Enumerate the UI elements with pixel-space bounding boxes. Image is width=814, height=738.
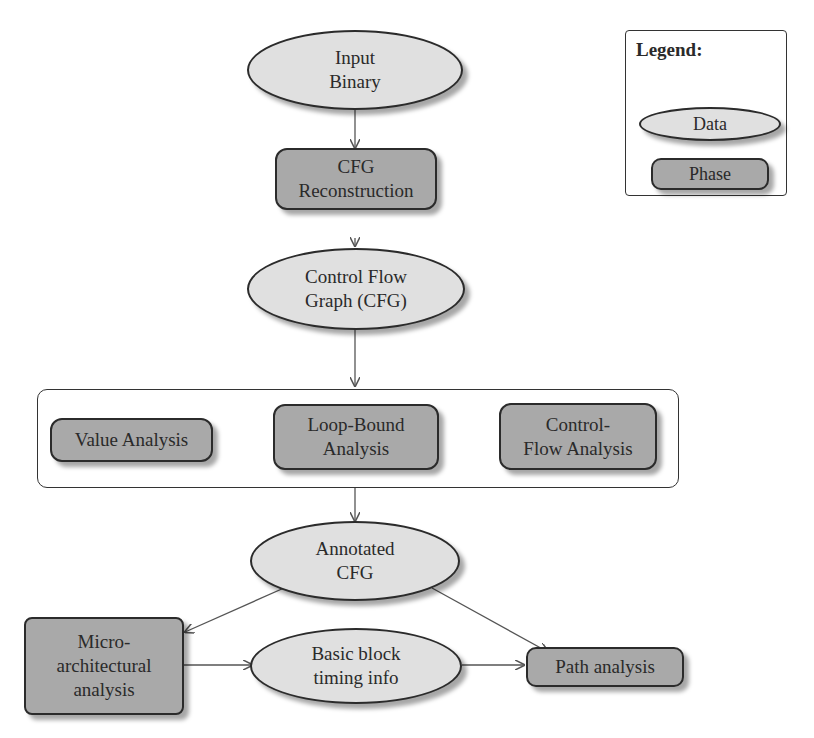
node-annotated-cfg[interactable]: Annotated CFG bbox=[250, 521, 460, 601]
legend-box: Legend: Data Phase bbox=[625, 30, 787, 196]
node-control-flow-analysis-label: Control- Flow Analysis bbox=[523, 413, 632, 461]
node-basic-block-timing[interactable]: Basic block timing info bbox=[250, 628, 462, 704]
diagram-canvas: Legend: Data Phase Input Binary CFG Reco… bbox=[0, 0, 814, 738]
legend-data-label: Data bbox=[693, 112, 727, 136]
edge-annotated-to-micro bbox=[185, 588, 284, 632]
node-control-flow-graph-label: Control Flow Graph (CFG) bbox=[305, 265, 407, 313]
node-loop-bound-analysis-label: Loop-Bound Analysis bbox=[307, 413, 404, 461]
node-cfg-reconstruction[interactable]: CFG Reconstruction bbox=[275, 148, 437, 210]
legend-phase-swatch: Phase bbox=[651, 158, 769, 190]
legend-title: Legend: bbox=[636, 39, 703, 61]
node-cfg-reconstruction-label: CFG Reconstruction bbox=[298, 155, 413, 203]
edge-annotated-to-path bbox=[432, 588, 548, 652]
legend-data-swatch: Data bbox=[639, 107, 781, 141]
node-microarchitectural-analysis[interactable]: Micro- architectural analysis bbox=[24, 617, 184, 715]
node-annotated-cfg-label: Annotated CFG bbox=[315, 537, 394, 585]
node-input-binary-label: Input Binary bbox=[329, 46, 381, 94]
node-path-analysis-label: Path analysis bbox=[555, 655, 655, 679]
legend-phase-label: Phase bbox=[689, 162, 731, 186]
node-value-analysis[interactable]: Value Analysis bbox=[50, 418, 213, 462]
node-control-flow-graph[interactable]: Control Flow Graph (CFG) bbox=[247, 248, 465, 330]
node-control-flow-analysis[interactable]: Control- Flow Analysis bbox=[499, 403, 657, 470]
node-loop-bound-analysis[interactable]: Loop-Bound Analysis bbox=[273, 404, 439, 470]
node-value-analysis-label: Value Analysis bbox=[75, 428, 188, 452]
node-microarchitectural-analysis-label: Micro- architectural analysis bbox=[57, 630, 152, 702]
node-input-binary[interactable]: Input Binary bbox=[247, 30, 463, 110]
node-path-analysis[interactable]: Path analysis bbox=[526, 647, 684, 687]
node-basic-block-timing-label: Basic block timing info bbox=[311, 642, 400, 690]
